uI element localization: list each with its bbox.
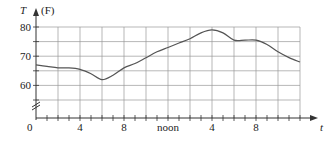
axes <box>32 8 318 121</box>
x-tick-label: 4 <box>77 121 83 133</box>
y-tick-label: 60 <box>20 79 32 91</box>
x-axis-title: t <box>320 121 324 133</box>
origin-label: 0 <box>27 121 33 133</box>
grid-lines <box>36 27 300 118</box>
x-tick-label: noon <box>157 121 180 133</box>
x-axis-arrow-icon <box>310 115 318 121</box>
y-tick-label: 80 <box>20 21 32 33</box>
y-axis-unit: (F) <box>41 4 55 17</box>
temperature-chart: T (F) t 0 48noon48607080 <box>0 0 334 143</box>
x-tick-label: 4 <box>209 121 215 133</box>
y-axis-arrow-icon <box>33 8 39 16</box>
x-tick-label: 8 <box>121 121 127 133</box>
y-axis-title: T <box>20 4 27 16</box>
y-tick-label: 70 <box>20 50 32 62</box>
x-tick-label: 8 <box>253 121 259 133</box>
